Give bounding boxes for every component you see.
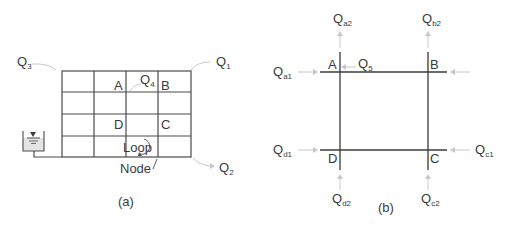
- qd1-arrowhead-icon: [313, 147, 318, 153]
- figure-b: A B D C Qa2 Qb2 Qa1 Q5 Qd1 Qc1 Qd2 Qc2 (…: [273, 11, 494, 215]
- flow-label-q1: Q1: [216, 54, 231, 71]
- node-label-a: A: [114, 78, 123, 93]
- qa1-arrowhead-icon: [313, 69, 318, 75]
- node-label-b: B: [430, 57, 439, 72]
- supply-pipe: [34, 151, 62, 157]
- qa2-arrowhead-icon: [337, 31, 343, 36]
- flow-label-qa1: Qa1: [273, 64, 293, 81]
- node-label-a: A: [328, 57, 337, 72]
- flow-label-qc2: Qc2: [421, 191, 440, 208]
- flow-label-q5: Q5: [358, 56, 373, 73]
- q2-leader: [193, 158, 210, 166]
- qc2-arrowhead-icon: [425, 174, 431, 179]
- flow-label-q2: Q2: [219, 160, 234, 177]
- flow-label-qd2: Qd2: [332, 191, 352, 208]
- flow-label-q4: Q4: [140, 72, 155, 89]
- loop-label: Loop: [123, 140, 152, 155]
- flow-label-q3: Q3: [17, 54, 32, 71]
- reservoir-tank-icon: [23, 131, 62, 157]
- node-label-d: D: [114, 117, 123, 132]
- figure-a: Q3 Q1 Q4 Q2 A B C D Loop Node (a): [17, 54, 234, 209]
- pipe-network-figure: Q3 Q1 Q4 Q2 A B C D Loop Node (a): [0, 0, 508, 226]
- qb1-arrowhead-icon: [450, 69, 455, 75]
- node-label: Node: [120, 161, 151, 176]
- node-label-d: D: [328, 151, 337, 166]
- node-label-c: C: [430, 151, 439, 166]
- qd2-arrowhead-icon: [337, 174, 343, 179]
- flow-label-qc1: Qc1: [475, 142, 494, 159]
- figure-caption-a: (a): [118, 194, 134, 209]
- q3-leader: [32, 64, 56, 70]
- flow-label-qa2: Qa2: [333, 11, 353, 28]
- q2-arrow-icon: [210, 163, 215, 169]
- node-label-c: C: [161, 117, 170, 132]
- q1-leader: [191, 62, 210, 70]
- q5-arrowhead-icon: [341, 64, 346, 70]
- flow-label-qb2: Qb2: [422, 11, 442, 28]
- qb2-arrowhead-icon: [425, 31, 431, 36]
- node-pointer: [153, 159, 157, 169]
- figure-caption-b: (b): [378, 200, 394, 215]
- qc1-arrowhead-icon: [450, 147, 455, 153]
- node-label-b: B: [161, 78, 170, 93]
- flow-label-qd1: Qd1: [273, 142, 293, 159]
